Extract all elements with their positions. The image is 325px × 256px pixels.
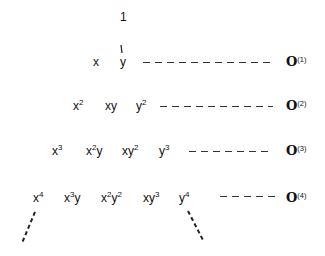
continuation-right	[188, 211, 203, 240]
continuation-left	[22, 212, 35, 243]
tick-mark	[121, 45, 122, 53]
diagram-strokes	[0, 0, 325, 256]
